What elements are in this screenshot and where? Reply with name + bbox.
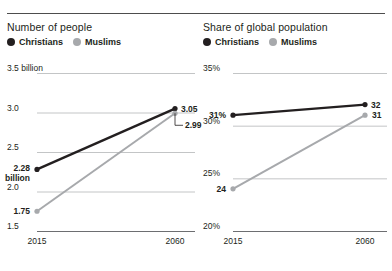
data-point-marker[interactable] (230, 186, 235, 191)
chart-svg (7, 61, 197, 261)
legend-dot-christians-icon (203, 38, 211, 46)
plot-area-share-of-global-population: 20%25%30%35%2015206031%322431 (203, 61, 389, 261)
y-axis-tick-label: 2.5 (7, 142, 21, 152)
legend-label-muslims: Muslims (281, 37, 317, 47)
x-axis-tick-label: 2015 (28, 236, 47, 246)
legend-item-muslims-secondary[interactable]: Muslims (269, 37, 317, 47)
data-point-value-label: 2.99 (185, 120, 202, 130)
data-point-value-line: billion (5, 173, 30, 183)
data-point-marker[interactable] (34, 209, 39, 214)
x-axis-tick-label: 2015 (224, 236, 243, 246)
legend-item-christians-secondary[interactable]: Christians (203, 37, 259, 47)
chart-svg (203, 61, 389, 261)
legend-dot-christians-icon (7, 38, 15, 46)
chart-panel-share-of-global-population: Share of global population Christians Mu… (203, 13, 389, 271)
data-point-value-label: 2.28billion (5, 163, 30, 183)
data-point-value-label: 3.05 (181, 104, 198, 114)
page-title: Number of people (7, 21, 92, 33)
legend-label-christians: Christians (215, 37, 259, 47)
series-line (233, 105, 365, 116)
legend: Christians Muslims (7, 37, 121, 47)
y-axis-tick-label: 3.0 (7, 103, 21, 113)
x-axis-tick-label: 2060 (166, 236, 185, 246)
chart-panel-number-of-people: Number of people Christians Muslims 1.52… (7, 13, 197, 271)
data-point-value-label: 32 (371, 100, 380, 110)
data-point-value-label: 31 (372, 110, 381, 120)
series-line (37, 109, 175, 170)
legend-dot-muslims-icon (269, 38, 277, 46)
data-point-value-label: 31% (209, 110, 226, 120)
chart-page: Number of people Christians Muslims 1.52… (0, 0, 392, 271)
legend-dot-muslims-icon (73, 38, 81, 46)
y-axis-tick-label: 3.5 billion (7, 63, 45, 73)
legend-label-christians: Christians (19, 37, 63, 47)
legend-secondary: Christians Muslims (203, 37, 317, 47)
y-axis-tick-label: 1.5 (7, 221, 21, 231)
page-title-secondary: Share of global population (203, 21, 328, 33)
plot-area-number-of-people: 1.52.02.53.03.5 billion201520602.28billi… (7, 61, 197, 261)
legend-label-muslims: Muslims (85, 37, 121, 47)
legend-item-christians[interactable]: Christians (7, 37, 63, 47)
data-point-value-line: 2.28 (5, 163, 30, 173)
y-axis-tick-label: 20% (203, 221, 222, 231)
data-point-marker[interactable] (362, 113, 367, 118)
legend-item-muslims[interactable]: Muslims (73, 37, 121, 47)
x-axis-tick-label: 2060 (356, 236, 375, 246)
data-point-marker[interactable] (230, 113, 235, 118)
data-point-value-label: 1.75 (13, 206, 30, 216)
y-axis-tick-label: 25% (203, 168, 222, 178)
data-point-marker[interactable] (34, 167, 39, 172)
data-point-marker[interactable] (172, 106, 177, 111)
data-point-value-label: 24 (217, 184, 226, 194)
data-point-marker[interactable] (362, 102, 367, 107)
y-axis-tick-label: 35% (203, 63, 222, 73)
series-line (37, 113, 175, 211)
